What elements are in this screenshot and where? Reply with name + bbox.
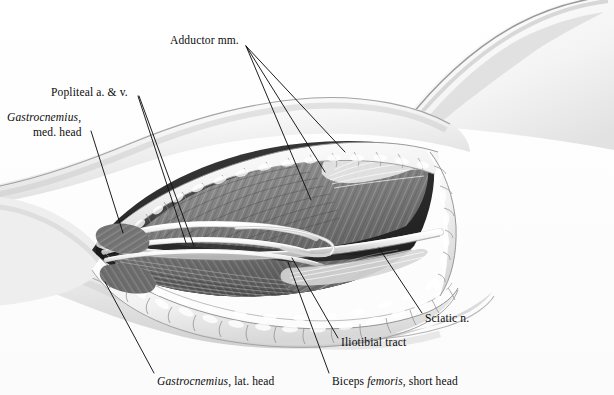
label-gastrocnemius-lateral-roman: , lat. head: [228, 375, 274, 387]
anatomy-illustration: [0, 0, 614, 395]
label-gastrocnemius-lateral-head: Gastrocnemius, lat. head: [157, 374, 275, 389]
label-gastrocnemius-medial-italic: Gastrocnemius,: [7, 111, 81, 123]
label-sciatic-nerve: Sciatic n.: [425, 311, 469, 326]
label-gastrocnemius-medial-line2: med. head: [7, 125, 82, 140]
label-gastrocnemius-medial-head: Gastrocnemius, med. head: [7, 110, 82, 139]
anatomical-figure: Adductor mm. Popliteal a. & v. Gastrocne…: [0, 0, 614, 395]
label-biceps-roman-post: , short head: [403, 375, 458, 387]
label-biceps-italic: femoris: [367, 375, 403, 387]
label-biceps-roman-pre: Biceps: [332, 375, 367, 387]
label-adductor-mm: Adductor mm.: [170, 33, 239, 48]
label-iliotibial-tract: Iliotibial tract: [341, 335, 406, 350]
label-gastrocnemius-lateral-italic: Gastrocnemius: [157, 375, 228, 387]
label-biceps-femoris-short-head: Biceps femoris, short head: [332, 374, 458, 389]
label-popliteal-vessels: Popliteal a. & v.: [51, 85, 128, 100]
